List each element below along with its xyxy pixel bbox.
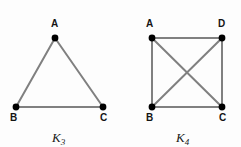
graph-edge-ac bbox=[55, 38, 103, 107]
complete-graphs-figure: A B C K3 A D B C K4 bbox=[0, 0, 241, 147]
vertex-label-d: D bbox=[218, 19, 225, 29]
graph-panel-k3: A B C K3 bbox=[0, 0, 120, 147]
graph-vertex-b bbox=[149, 104, 156, 111]
caption-k4: K4 bbox=[176, 131, 189, 146]
vertex-label-c: C bbox=[100, 113, 107, 123]
graph-vertex-b bbox=[13, 104, 20, 111]
vertex-label-b: B bbox=[10, 113, 17, 123]
graph-drawing-k3 bbox=[0, 0, 120, 125]
graph-panel-k4: A D B C K4 bbox=[120, 0, 241, 147]
caption-k3-subscript: 3 bbox=[61, 137, 66, 147]
caption-k3: K3 bbox=[52, 131, 65, 146]
graph-vertex-d bbox=[219, 35, 226, 42]
graph-vertex-a bbox=[52, 35, 59, 42]
graph-vertex-a bbox=[149, 35, 156, 42]
caption-k3-base: K bbox=[52, 130, 61, 145]
caption-k4-subscript: 4 bbox=[185, 137, 190, 147]
vertex-label-a: A bbox=[146, 19, 153, 29]
vertex-label-b: B bbox=[146, 113, 153, 123]
caption-k4-base: K bbox=[176, 130, 185, 145]
graph-vertex-c bbox=[100, 104, 107, 111]
graph-edge-ab bbox=[16, 38, 55, 107]
vertex-label-a: A bbox=[51, 19, 58, 29]
vertex-label-c: C bbox=[219, 113, 226, 123]
graph-vertex-c bbox=[219, 104, 226, 111]
